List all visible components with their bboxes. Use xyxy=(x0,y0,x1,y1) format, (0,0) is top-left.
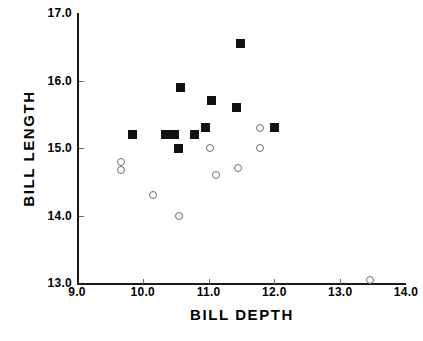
data-point-filled-square xyxy=(207,96,216,105)
data-point-filled-square xyxy=(176,83,185,92)
x-tick-label: 9.0 xyxy=(53,286,101,298)
data-point-open-circle xyxy=(234,164,242,172)
x-axis-line xyxy=(77,283,406,285)
y-tick-label: 14.0 xyxy=(28,210,72,222)
y-tick-mark xyxy=(79,148,84,149)
x-axis-label: BILL DEPTH xyxy=(77,306,407,323)
x-tick-mark xyxy=(209,279,210,284)
x-tick-mark xyxy=(143,279,144,284)
data-point-filled-square xyxy=(201,123,210,132)
y-tick-label: 17.0 xyxy=(28,7,72,19)
data-point-filled-square xyxy=(174,144,183,153)
data-point-open-circle xyxy=(212,171,220,179)
data-point-open-circle xyxy=(175,212,183,220)
data-point-filled-square xyxy=(128,130,137,139)
data-point-open-circle xyxy=(366,276,374,284)
x-tick-label: 10.0 xyxy=(119,286,167,298)
data-point-open-circle xyxy=(117,166,125,174)
y-tick-label: 16.0 xyxy=(28,75,72,87)
x-tick-label: 14.0 xyxy=(382,286,423,298)
x-tick-mark xyxy=(340,279,341,284)
data-point-filled-square xyxy=(190,130,199,139)
data-point-open-circle xyxy=(206,144,214,152)
x-tick-mark xyxy=(274,279,275,284)
x-tick-label: 13.0 xyxy=(316,286,364,298)
data-point-filled-square xyxy=(232,103,241,112)
data-point-filled-square xyxy=(270,123,279,132)
x-tick-label: 12.0 xyxy=(250,286,298,298)
data-point-open-circle xyxy=(149,191,157,199)
y-tick-mark xyxy=(79,81,84,82)
y-tick-label: 15.0 xyxy=(28,142,72,154)
data-point-open-circle xyxy=(256,144,264,152)
data-point-open-circle xyxy=(256,124,264,132)
data-point-filled-square xyxy=(170,130,179,139)
y-tick-mark xyxy=(79,216,84,217)
scatter-plot-figure: BILL LENGTH BILL DEPTH 13.014.015.016.01… xyxy=(0,0,423,341)
x-tick-label: 11.0 xyxy=(185,286,233,298)
data-point-filled-square xyxy=(236,39,245,48)
data-point-open-circle xyxy=(117,158,125,166)
